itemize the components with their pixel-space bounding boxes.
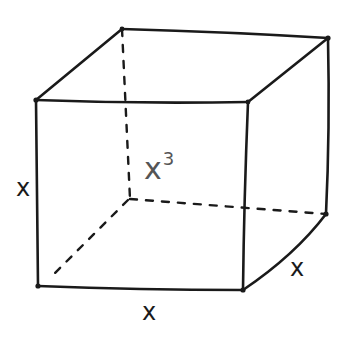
front-right-edge	[243, 102, 248, 290]
width-label: x	[142, 300, 156, 324]
height-label: x	[16, 176, 30, 200]
cube-drawing	[0, 0, 351, 342]
top-right-edge	[248, 38, 328, 102]
hidden-left-bottom-edge	[50, 200, 128, 278]
hidden-vertical-edge	[122, 29, 130, 199]
hidden-back-bottom-edge	[130, 199, 326, 214]
depth-label: x	[290, 256, 304, 280]
volume-base: x	[144, 151, 162, 186]
top-back-edge	[122, 29, 328, 38]
cube-diagram: x3 x x x	[0, 0, 351, 342]
top-left-edge	[36, 29, 122, 100]
front-bottom-edge	[38, 286, 243, 290]
back-right-edge	[326, 38, 329, 214]
front-left-edge	[36, 100, 38, 286]
bottom-right-edge	[243, 214, 326, 290]
volume-exponent: 3	[163, 148, 174, 169]
volume-label: x3	[144, 154, 174, 184]
front-top-edge	[36, 100, 248, 103]
